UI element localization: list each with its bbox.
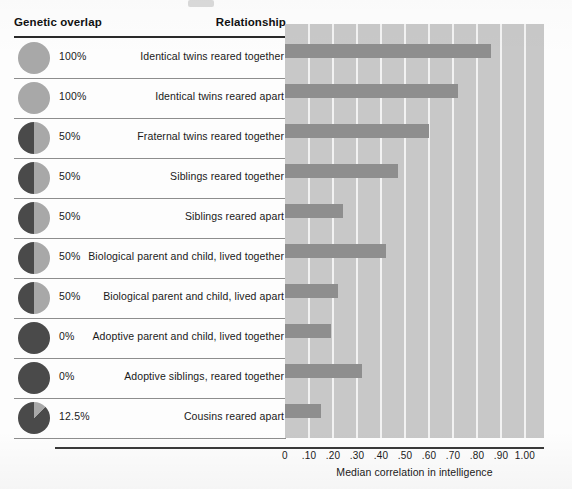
genetic-overlap-pie-icon <box>18 162 50 194</box>
table-row: 100%Identical twins reared together <box>14 38 286 79</box>
relationship-label: Biological parent and child, lived toget… <box>88 250 284 262</box>
genetic-overlap-value: 50% <box>59 250 81 262</box>
table-header: Genetic overlap Relationship <box>14 16 286 36</box>
table-row: 50%Siblings reared together <box>14 158 286 199</box>
genetic-overlap-pie-icon <box>18 282 50 314</box>
relationship-label: Adoptive parent and child, lived togethe… <box>93 330 284 342</box>
table-row: 100%Identical twins reared apart <box>14 78 286 119</box>
bar <box>285 124 429 138</box>
genetic-overlap-pie-icon <box>18 402 50 434</box>
genetic-overlap-pie-icon <box>18 82 50 114</box>
bar <box>285 164 398 178</box>
x-axis-tick-label: 1.00 <box>510 450 540 461</box>
bar <box>285 244 386 258</box>
genetic-overlap-pie-icon <box>18 42 50 74</box>
bar-series <box>285 24 544 438</box>
bar <box>285 324 331 338</box>
relationship-label: Identical twins reared apart <box>155 90 284 102</box>
genetic-overlap-value: 50% <box>59 170 81 182</box>
genetic-overlap-pie-icon <box>18 122 50 154</box>
table-row: 50%Biological parent and child, lived to… <box>14 238 286 279</box>
genetic-overlap-value: 0% <box>59 370 75 382</box>
column-header-genetic-overlap: Genetic overlap <box>14 16 102 28</box>
bar <box>285 84 458 98</box>
genetic-overlap-value: 50% <box>59 290 81 302</box>
genetic-overlap-value: 0% <box>59 330 75 342</box>
relationship-label: Siblings reared apart <box>185 210 284 222</box>
genetic-overlap-pie-icon <box>18 202 50 234</box>
bar <box>285 284 338 298</box>
relationship-label: Fraternal twins reared together <box>137 130 284 142</box>
relationship-table: 100%Identical twins reared together100%I… <box>14 38 286 438</box>
genetic-overlap-value: 50% <box>59 210 81 222</box>
genetic-overlap-pie-icon <box>18 362 50 394</box>
genetic-overlap-value: 12.5% <box>59 410 90 422</box>
table-row: 50%Fraternal twins reared together <box>14 118 286 159</box>
bar <box>285 404 321 418</box>
figure-page: Genetic overlap Relationship 100%Identic… <box>0 0 572 489</box>
genetic-overlap-pie-icon <box>18 242 50 274</box>
genetic-overlap-pie-icon <box>18 322 50 354</box>
table-row: 50%Biological parent and child, lived ap… <box>14 278 286 319</box>
bar <box>285 44 491 58</box>
bar <box>285 364 362 378</box>
genetic-overlap-value: 50% <box>59 130 81 142</box>
table-row: 0%Adoptive parent and child, lived toget… <box>14 318 286 359</box>
relationship-label: Biological parent and child, lived apart <box>103 290 284 302</box>
relationship-label: Adoptive siblings, reared together <box>124 370 284 382</box>
relationship-label: Cousins reared apart <box>184 410 284 422</box>
genetic-overlap-value: 100% <box>59 50 87 62</box>
relationship-label: Identical twins reared together <box>140 50 284 62</box>
x-axis-line <box>55 447 544 449</box>
table-row: 12.5%Cousins reared apart <box>14 398 286 439</box>
bar <box>285 204 343 218</box>
relationship-label: Siblings reared together <box>170 170 284 182</box>
genetic-overlap-value: 100% <box>59 90 87 102</box>
table-row: 0%Adoptive siblings, reared together <box>14 358 286 399</box>
column-header-relationship: Relationship <box>216 16 286 28</box>
scan-artifact <box>188 0 214 7</box>
x-axis-title: Median correlation in intelligence <box>285 466 544 478</box>
table-row: 50%Siblings reared apart <box>14 198 286 239</box>
